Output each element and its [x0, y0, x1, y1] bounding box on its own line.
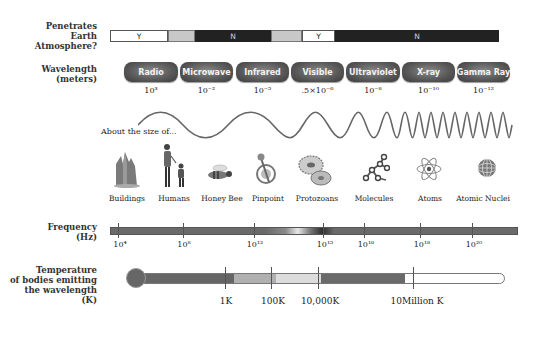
band-ultraviolet: Ultraviolet [346, 62, 400, 82]
frequency-tick-label: 10⁸ [177, 240, 190, 249]
temperature-tick-label: 100K [261, 296, 285, 306]
wavelength-value: 10⁻¹² [457, 86, 510, 95]
atmosphere-segment-partial [168, 30, 195, 42]
thermometer [126, 268, 506, 290]
temperature-tick-label: 1K [220, 296, 232, 306]
object-label-buildings: Buildings [106, 194, 148, 203]
temperature-tick-label: 10Million K [391, 296, 444, 306]
object-label-honey-bee: Honey Bee [199, 194, 245, 203]
frequency-tick-label: 10¹⁵ [317, 240, 334, 249]
buildings-icon [113, 150, 141, 188]
honey-bee-icon [205, 163, 235, 183]
temperature-tick [413, 267, 414, 289]
object-label-atoms: Atoms [410, 194, 450, 203]
frequency-tick-label: 10⁴ [113, 240, 126, 249]
temperature-label: Temperature of bodies emitting the wavel… [0, 265, 97, 305]
thermometer-bulb [126, 268, 146, 288]
atmosphere-segment-no: N [195, 30, 271, 42]
temperature-tick-label: 10,000K [301, 296, 339, 306]
frequency-bar [110, 227, 518, 235]
frequency-tick [183, 223, 184, 238]
wavelength-value: 10⁻¹⁰ [402, 86, 455, 95]
frequency-tick [254, 223, 255, 238]
wavelength-value: 10³ [124, 86, 178, 95]
temperature-tick [225, 267, 226, 289]
frequency-tick [118, 223, 119, 238]
temperature-tick [271, 267, 272, 289]
atmosphere-segment-no: N [335, 30, 499, 42]
segment-text: Y [316, 32, 321, 41]
atmosphere-segment-yes: Y [302, 30, 335, 42]
atomic-nuclei-icon [476, 157, 498, 179]
band-gamma-ray: Gamma Ray [457, 62, 510, 82]
humans-icon [158, 143, 188, 189]
wavelength-value: 10⁻⁸ [346, 86, 400, 95]
object-label-atomic-nuclei: Atomic Nuclei [452, 194, 514, 203]
object-label-molecules: Molecules [351, 194, 397, 203]
frequency-tick [364, 223, 365, 238]
wavelength-value: 10⁻² [180, 86, 233, 95]
band-x-ray: X-ray [402, 62, 455, 82]
band-visible: Visible [291, 62, 344, 82]
object-label-pinpoint: Pinpoint [248, 194, 288, 203]
frequency-tick-label: 10²⁰ [466, 240, 483, 249]
frequency-label: Frequency (Hz) [0, 222, 97, 242]
frequency-tick-label: 10¹² [247, 240, 264, 249]
frequency-tick-label: 10¹⁸ [414, 240, 431, 249]
atmosphere-segment-yes: Y [110, 30, 168, 42]
band-microwave: Microwave [180, 62, 233, 82]
thermometer-tube [136, 273, 505, 284]
segment-text: N [230, 32, 236, 41]
atmosphere-segment-partial [271, 30, 302, 42]
frequency-tick-label: 10¹⁶ [358, 240, 375, 249]
wave-graphic [138, 106, 514, 144]
molecules-icon [360, 152, 390, 184]
frequency-tick [323, 223, 324, 238]
segment-text: Y [137, 32, 142, 41]
wavelength-value: .5×10⁻⁶ [291, 86, 344, 95]
protozoans-icon [297, 152, 333, 188]
frequency-tick [420, 223, 421, 238]
band-radio: Radio [124, 62, 178, 82]
frequency-tick [472, 223, 473, 238]
object-label-protozoans: Protozoans [292, 194, 342, 203]
atoms-icon [415, 155, 443, 183]
temperature-tick [318, 267, 319, 289]
atmosphere-bar: Y N Y N [110, 30, 496, 42]
band-infrared: Infrared [236, 62, 289, 82]
atmosphere-label: Penetrates Earth Atmosphere? [0, 21, 97, 51]
object-label-humans: Humans [154, 194, 194, 203]
wavelength-bands: Radio Microwave Infrared Visible Ultravi… [0, 62, 541, 102]
segment-text: N [414, 32, 420, 41]
pinpoint-icon [253, 152, 279, 186]
wavelength-value: 10⁻⁵ [236, 86, 289, 95]
